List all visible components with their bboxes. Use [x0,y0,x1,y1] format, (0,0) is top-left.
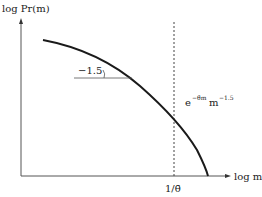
slope-label: −1.5 [78,65,102,76]
distribution-curve [43,40,208,176]
y-axis-label: log Pr(m) [2,3,50,14]
curve-formula-exp: −θ̄m [192,94,207,101]
x-axis-arrow-icon [225,174,231,178]
y-axis-arrow-icon [19,18,23,24]
cutoff-tick-label: 1/θ̄ [165,183,181,194]
power-law-diagram: −1.5 log Pr(m) log m 1/θ̄ e −θ̄m m −1.5 [0,0,262,197]
slope-angle-arc [103,70,105,78]
curve-formula-m-exp: −1.5 [219,94,234,101]
curve-formula-base: e [185,97,191,108]
x-axis-label: log m [234,171,262,182]
curve-formula-m: m [209,97,219,108]
